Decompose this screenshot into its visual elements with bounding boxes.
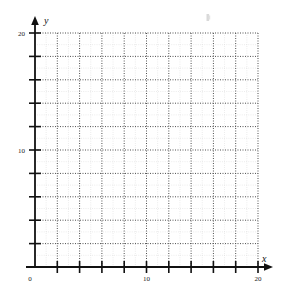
x-tick-label-10: 10: [143, 275, 151, 283]
y-tick-label-20: 20: [18, 30, 26, 38]
graph-svg: 20 10 0 10 20 y x: [0, 0, 282, 295]
figure-background: [0, 0, 282, 295]
x-tick-label-20: 20: [255, 275, 263, 283]
coordinate-grid-figure: 20 10 0 10 20 y x: [0, 0, 282, 295]
x-axis-label: x: [261, 253, 267, 264]
origin-label-0: 0: [28, 275, 32, 283]
y-axis-label: y: [43, 15, 49, 26]
y-tick-label-10: 10: [18, 147, 26, 155]
